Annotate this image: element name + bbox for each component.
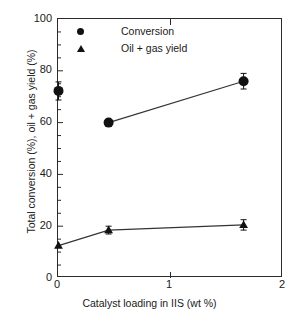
y-axis-title: Total conversion (%), oil + gas yield (%…: [26, 27, 37, 257]
conversion-point-0: [54, 86, 64, 96]
conversion-point-2: [239, 76, 249, 86]
y-tick-label-100: 100: [0, 13, 52, 24]
oil-gas-yield-point-2: [239, 220, 248, 228]
chart-legend: Conversion Oil + gas yield: [77, 23, 217, 57]
conversion-line: [109, 81, 244, 122]
x-tick-label-0: 0: [45, 279, 69, 290]
triangle-marker-icon: [77, 45, 107, 52]
plot-canvas: [58, 19, 283, 278]
circle-marker-icon: [77, 28, 107, 35]
series-conversion: [54, 73, 249, 127]
x-axis-title: Catalyst loading in IIS (wt %): [0, 298, 299, 309]
series-oil-gas-yield: [54, 220, 248, 249]
legend-item-conversion: Conversion: [77, 23, 217, 40]
legend-item-oil-gas-yield: Oil + gas yield: [77, 40, 217, 57]
chart-figure: 100 80 60 40 20 0 0 1 2 Total conversion…: [0, 0, 299, 322]
x-tick-label-2: 2: [270, 279, 294, 290]
plot-area: Conversion Oil + gas yield: [57, 18, 282, 277]
oil-gas-yield-error-bars: [59, 220, 247, 248]
conversion-point-1: [104, 118, 114, 128]
oil-gas-yield-line: [59, 225, 244, 246]
y-minor-ticks: [58, 32, 61, 265]
legend-label-conversion: Conversion: [121, 26, 174, 37]
legend-label-oil-gas-yield: Oil + gas yield: [121, 43, 187, 54]
x-tick-label-1: 1: [157, 279, 181, 290]
conversion-error-bars: [56, 73, 247, 125]
